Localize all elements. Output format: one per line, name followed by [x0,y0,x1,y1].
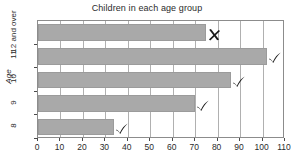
x-tick-label: 60 [160,142,184,152]
x-tick-label: 30 [92,142,116,152]
bar [38,119,114,136]
bar-row [38,68,283,92]
x-tick-label: 80 [205,142,229,152]
bar [38,48,267,65]
x-tick-label: 20 [70,142,94,152]
bar-row [38,92,283,116]
x-tick-label: 70 [182,142,206,152]
plot-area [37,20,284,138]
x-tick-label: 40 [115,142,139,152]
bar [38,72,231,89]
bar-row [38,115,283,139]
bar-chart: Children in each age group Age 89101112 … [0,0,294,161]
bar-row [38,45,283,69]
x-tick-label: 50 [137,142,161,152]
bar-row [38,21,283,45]
chart-title: Children in each age group [0,3,294,13]
y-tick-label: 12 and over [9,1,18,61]
bar [38,95,195,112]
bar [38,24,206,41]
x-tick-label: 110 [272,142,294,152]
x-tick-label: 10 [47,142,71,152]
x-tick-label: 90 [227,142,251,152]
x-tick-mark [284,138,285,141]
x-tick-label: 0 [25,142,49,152]
x-tick-label: 100 [250,142,274,152]
